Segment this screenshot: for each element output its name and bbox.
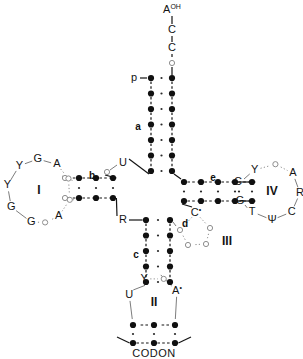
t-stem-nt-bottom-1 [198,198,204,204]
variable-loop-backbone-1 [207,234,208,238]
acceptor-stem-nt-right-0 [169,75,175,81]
t-stem-bond-3 [234,190,236,192]
t-stem-nt-top-4 [249,179,255,185]
anticodon-stem-nt-left-3 [143,263,149,269]
anticodon-loop-base-0: Y [141,272,149,284]
t-stem-nt-bottom-0 [181,198,187,204]
d-loop-backbone-9 [11,171,17,180]
arm-label-c: c [133,249,139,260]
t-stem-bond-4 [251,190,253,192]
d-loop-open-circle-3 [66,176,71,181]
t-loop-base-2: A [289,166,297,178]
trna-cloverleaf-diagram: AOHCCpURYGAAGGYICGYARCΨTIVC•IIIYA•UIICOD… [0,0,303,359]
variable-loop-backbone-3 [183,235,185,239]
t-stem-nt-bottom-2 [215,198,221,204]
anticodon-nt-4 [151,322,157,328]
variable-loop-open-circle-2 [203,241,208,246]
anticodon-stem-bond-3 [157,265,159,267]
anticodon-stem-bond-2 [157,250,159,252]
text-labels-layer: AOHCCpURYGAAGGYICGYARCΨTIVC•IIIYA•UIICOD… [4,3,303,359]
d-stem-bond-2 [112,187,114,189]
anticodon-stem-nt-left-0 [143,217,149,223]
acceptor-to-tstem-link [174,174,181,179]
acceptor-stem-nt-left-4 [148,137,154,143]
t-loop-backbone-1 [281,167,288,171]
loop-label-variable: III [222,234,232,248]
anticodon-stem-bond-1 [157,234,159,236]
loop-label-tpsic: IV [266,184,277,198]
acceptor-stem-nt-right-5 [169,152,175,158]
anticodon-stem-nt-right-2 [167,248,173,254]
acceptor-stem-bond-6 [160,170,162,172]
anticodon-stem-nt-left-1 [143,232,149,238]
d-loop-base-a-5: A [55,209,63,221]
acceptor-stem-nt-left-2 [148,106,154,112]
acceptor-stem-nt-left-5 [148,152,154,158]
d-stem-bond-0 [78,187,80,189]
t-loop-close-top [244,174,250,179]
anticodon-stem-bond-4 [157,281,159,283]
variable-loop-open-circle-3 [185,242,190,247]
arm-label-e: e [210,172,216,183]
t-stem-nt-top-2 [215,179,221,185]
t-stem-bond-1 [200,190,202,192]
t-loop-open-circle-1 [273,162,278,167]
codon-label: CODON [132,347,175,359]
t-stem-nt-top-0 [181,179,187,185]
acceptor-stem-nt-right-2 [169,106,175,112]
t-loop-backbone-5 [258,214,267,218]
t-stem-nt-top-1 [198,179,204,185]
d-loop-base-g-1: G [34,152,43,164]
d-loop-backbone-2 [61,169,65,174]
d-loop-backbone-4 [62,205,66,211]
d-loop-base-g-8: G [7,200,16,212]
anticodon-stem-nt-right-1 [167,232,173,238]
t-stem-bond-last [238,190,240,192]
variable-loop-to-anticodon-stem-link [173,222,176,226]
codon-nt-2 [172,340,178,346]
anticodon-stem-to-loop-left [133,285,145,290]
d-stem-nt-bottom-2 [110,195,116,201]
acceptor-stem-nt-left-3 [148,121,154,127]
d-loop-base-g-7: G [27,215,36,227]
d-loop-base-y-0: Y [16,159,24,171]
d-stem-nt-top-0 [76,175,82,181]
t-stem-bond-0 [183,190,185,192]
arm-label-a: a [135,121,141,132]
codon-anticodon-bond-2 [174,333,176,335]
acceptor-stem-nt-left-1 [148,90,154,96]
acceptor-end-open-circle [169,60,174,65]
anticodon-nt-3 [172,322,178,328]
anticodon-stem-bond-0 [157,219,159,221]
acceptor-end-c-2: C [168,41,176,53]
anticodon-loop-open-circle-1 [161,276,166,281]
acceptor-stem-nt-right-3 [169,121,175,127]
d-loop-open-circle-6 [43,220,48,225]
t-loop-base-6: T [249,205,256,217]
t-loop-base-3: R [296,186,303,198]
anticodon-stem-nt-left-2 [143,248,149,254]
junction-circle-to-u-link [110,165,117,170]
loop-label-anticodon: II [151,295,158,309]
codon-anticodon-bond-1 [153,333,155,335]
d-loop-backbone-1 [44,161,51,163]
d-loop-base-y-9: Y [4,178,12,190]
acceptor-end-a-0: AOH [163,3,181,15]
codon-strand-right-end [178,337,191,343]
d-loop-backbone-5 [51,219,54,220]
t-loop-base-4: C [288,205,296,217]
acceptor-stem-bond-0 [160,77,162,79]
anticodon-stem-nt-right-0 [167,217,173,223]
d-to-r-link [116,198,117,216]
anticodon-nt-5 [130,322,136,328]
junction-r-residue: R [119,213,127,225]
t-stem-c-residue: C [234,175,242,187]
t-loop-backbone-4 [278,214,287,218]
acceptor-stem-bond-5 [160,154,162,156]
t-loop-base-5: Ψ [267,213,276,225]
anticodon-loop-backbone-5 [130,301,132,319]
phosphate-label: p [131,71,137,83]
acceptor-stem-bond-4 [160,139,162,141]
loop-label-dihydrouridine: I [37,183,40,197]
codon-strand-left-end [117,337,130,343]
